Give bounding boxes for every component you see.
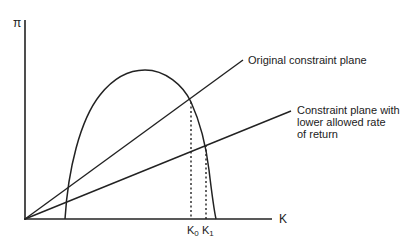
lower-constraint-line xyxy=(25,111,291,219)
profit-curve xyxy=(65,70,216,219)
original-constraint-label: Original constraint plane xyxy=(248,54,367,66)
k1-subscript: 1 xyxy=(209,229,213,238)
y-axis-label: π xyxy=(13,17,21,29)
k1-tick-label: K1 xyxy=(202,224,214,240)
x-axis-label: K xyxy=(279,213,287,225)
lower-constraint-label: Constraint plane with lower allowed rate… xyxy=(297,104,400,140)
original-constraint-line xyxy=(25,60,243,219)
k0-tick-label: K0 xyxy=(187,224,199,240)
k0-subscript: 0 xyxy=(194,229,198,238)
